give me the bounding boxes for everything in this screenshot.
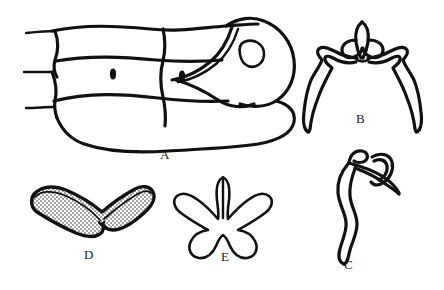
figure-a-eye <box>240 41 264 67</box>
figure-a-drawing <box>24 18 294 152</box>
figure-label-c: C <box>344 258 353 271</box>
plate-canvas <box>0 0 444 290</box>
figure-c-drawing <box>338 151 399 264</box>
figure-a-median-suture <box>161 29 166 126</box>
figure-a-segment-line-1 <box>54 31 58 77</box>
figure-a-seta-bottom <box>26 107 53 108</box>
illustration-plate: A B C D E <box>0 0 444 290</box>
figure-a-ventral-margin <box>57 101 294 152</box>
figure-d-stippled-body <box>32 187 154 237</box>
figure-b-arm-right-inner <box>369 56 419 132</box>
figure-b-arm-left-inner <box>306 56 356 132</box>
figure-label-a: A <box>160 148 170 161</box>
figure-a-spiracle-left <box>111 69 116 79</box>
figure-c-shaft-left <box>338 164 348 264</box>
figure-d-drawing <box>32 187 154 237</box>
figure-c-apical-hook <box>349 151 367 163</box>
figure-a-spiracle-right <box>180 71 185 81</box>
figure-label-d: D <box>84 248 94 261</box>
figure-label-e: E <box>221 250 229 263</box>
figure-e-drawing <box>174 177 272 258</box>
figure-a-division-2 <box>54 95 228 102</box>
figure-a-division-1 <box>56 57 222 61</box>
figure-a-segment-line-2 <box>52 72 57 118</box>
figure-label-b: B <box>356 112 365 125</box>
